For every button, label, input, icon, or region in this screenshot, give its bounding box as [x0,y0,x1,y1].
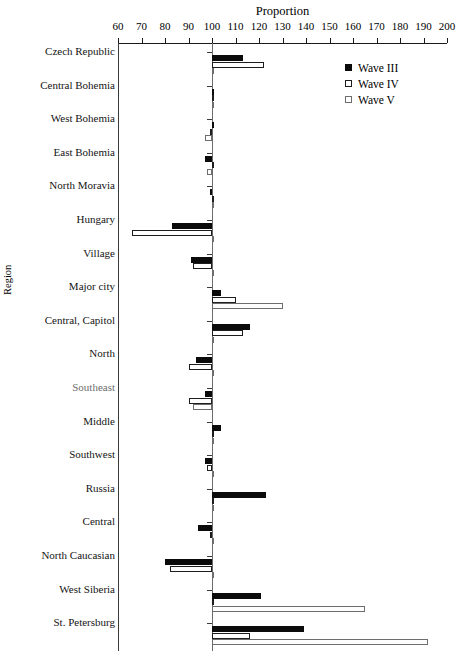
y-tick-mark [207,556,212,557]
bar-wave-iv [212,599,214,605]
bar-wave-iii [205,391,212,397]
bar-wave-v [212,438,214,444]
bar-wave-v [212,471,214,477]
legend-item: Wave III [345,60,399,76]
bar-wave-v [212,303,283,309]
bar-wave-v [212,102,214,108]
bar-wave-v [212,370,214,376]
y-tick-mark [207,119,212,120]
y-tick-mark [207,321,212,322]
plot-left-frame [118,43,119,651]
legend-swatch-wave-iv-icon [345,80,352,87]
bar-wave-iv [207,465,212,471]
bar-wave-iii [212,290,221,296]
x-axis-line [118,43,447,44]
bar-wave-iii [172,223,212,229]
bar-wave-iv [212,498,214,504]
bar-wave-iv [132,230,212,236]
y-tick-mark [207,254,212,255]
bar-wave-v [212,202,214,208]
bar-wave-iv [212,62,264,68]
bar-wave-iii [212,593,261,599]
chart-title: Proportion [118,4,447,19]
legend-label: Wave III [358,62,398,74]
category-label: West Siberia [59,583,115,595]
bar-wave-iii [212,626,304,632]
bar-wave-iii [205,156,212,162]
bar-wave-v [212,68,214,74]
category-label: Czech Republic [45,45,115,57]
y-tick-mark [207,287,212,288]
bar-wave-iv [170,566,212,572]
bar-wave-v [212,538,214,544]
y-tick-mark [207,388,212,389]
y-tick-mark [207,220,212,221]
bar-wave-v [212,236,214,242]
category-label: North Moravia [49,179,115,191]
legend-swatch-wave-v-icon [345,96,352,103]
bar-wave-iv [189,364,213,370]
bar-wave-iii [212,55,243,61]
legend-item: Wave IV [345,76,399,92]
y-tick-mark [207,86,212,87]
bar-wave-iv [212,297,236,303]
bar-wave-v [212,572,214,578]
category-label: Middle [83,415,115,427]
bar-wave-iv [212,162,214,168]
category-label: Village [83,247,115,259]
bar-wave-iv [189,398,213,404]
reference-line-100 [212,43,213,651]
y-tick-mark [207,623,212,624]
bar-wave-v [205,135,212,141]
bar-wave-v [212,639,428,645]
bar-wave-v [193,404,212,410]
y-tick-mark [207,52,212,53]
bar-wave-iii [212,492,266,498]
category-label: North Caucasian [41,549,115,561]
x-tick-mark [447,38,448,43]
y-tick-mark [207,354,212,355]
bar-wave-iv [212,633,250,639]
bar-wave-v [212,337,214,343]
bar-wave-iii [212,122,214,128]
y-tick-mark [207,489,212,490]
category-label: North [89,347,115,359]
bar-wave-iv [212,95,214,101]
bar-wave-iii [212,425,221,431]
category-label: Southeast [72,381,115,393]
bar-wave-iii [191,257,212,263]
y-axis-title: Region [2,265,13,295]
category-label: Central [83,515,115,527]
y-tick-mark [207,455,212,456]
bar-wave-v [212,606,365,612]
bar-wave-iii [212,324,250,330]
legend-label: Wave IV [358,78,399,90]
bar-wave-iii [212,89,214,95]
bar-wave-v [212,505,214,511]
legend-swatch-wave-iii-icon [345,64,352,71]
category-label: Russia [86,482,115,494]
bar-wave-iv [212,431,214,437]
y-tick-mark [207,422,212,423]
category-label: Major city [69,280,115,292]
category-label: Southwest [69,448,115,460]
category-label: East Bohemia [54,146,115,158]
bar-wave-iii [165,559,212,565]
y-tick-mark [207,590,212,591]
bar-wave-iv [210,129,212,135]
y-tick-mark [207,522,212,523]
bar-wave-iv [210,532,212,538]
bar-wave-v [207,169,212,175]
bar-wave-iv [193,263,212,269]
bar-wave-iii [210,189,212,195]
category-label: St. Petersburg [53,616,115,628]
bar-wave-iv [212,330,243,336]
y-tick-mark [207,186,212,187]
y-tick-mark [207,153,212,154]
category-label: Central, Capitol [45,314,115,326]
bar-wave-v [212,270,214,276]
x-tick-label: 200 [432,20,462,32]
category-label: Central Bohemia [40,79,115,91]
legend-item: Wave V [345,92,399,108]
chart-legend: Wave IIIWave IVWave V [345,60,399,108]
